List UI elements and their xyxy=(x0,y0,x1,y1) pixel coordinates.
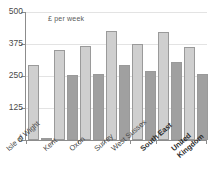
y-axis-label-250: 250 xyxy=(9,71,23,80)
y-axis-label-125: 125 xyxy=(9,103,23,112)
bar-oxon-light xyxy=(80,46,91,140)
y-axis-label-500: 500 xyxy=(9,7,23,16)
bar-chart: £ per week 500 375 250 125 0 xyxy=(0,0,209,188)
bar-series-area xyxy=(26,12,207,140)
x-tick-7 xyxy=(206,141,207,144)
bar-surrey-light xyxy=(106,31,117,140)
bar-west-sussex-dark xyxy=(145,71,156,140)
chart-screenshot: £ per week 500 375 250 125 0 xyxy=(0,0,209,188)
bar-oxon-dark xyxy=(93,74,104,140)
bar-kent-light xyxy=(54,50,65,140)
y-axis-label-375: 375 xyxy=(9,39,23,48)
x-tick-0 xyxy=(26,141,27,144)
bar-kent-dark xyxy=(67,75,78,140)
x-tick-4 xyxy=(130,141,131,144)
